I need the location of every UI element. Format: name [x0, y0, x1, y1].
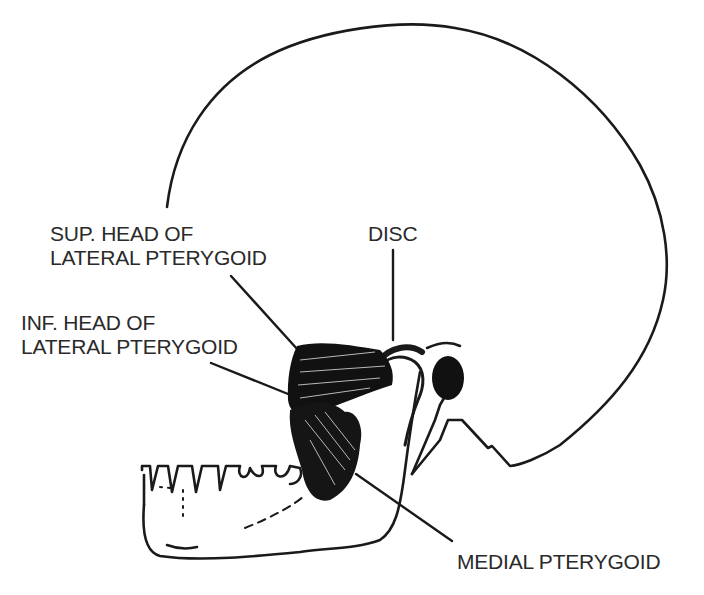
leader-inf — [211, 363, 293, 396]
teeth-row — [142, 466, 301, 492]
styloid-process — [412, 398, 444, 474]
label-line: LATERAL PTERYGOID — [50, 246, 267, 270]
label-disc: DISC — [368, 222, 417, 246]
label-line: INF. HEAD OF — [21, 311, 238, 335]
label-line: LATERAL PTERYGOID — [21, 335, 238, 359]
articular-eminence — [427, 343, 460, 348]
mandibular-canal — [245, 495, 305, 528]
leader-sup — [231, 276, 298, 350]
medial-pterygoid-muscle — [290, 403, 362, 501]
label-inferior-head-lateral-pterygoid: INF. HEAD OF LATERAL PTERYGOID — [21, 311, 238, 359]
skull-diagram: SUP. HEAD OF LATERAL PTERYGOID DISC INF.… — [0, 0, 704, 595]
lateral-pterygoid-muscle — [288, 343, 393, 414]
ear-canal — [432, 356, 464, 400]
label-superior-head-lateral-pterygoid: SUP. HEAD OF LATERAL PTERYGOID — [50, 222, 267, 270]
chin-line — [167, 545, 197, 548]
skull-illustration — [0, 0, 704, 595]
label-medial-pterygoid: MEDIAL PTERYGOID — [457, 550, 660, 574]
label-line: SUP. HEAD OF — [50, 222, 267, 246]
